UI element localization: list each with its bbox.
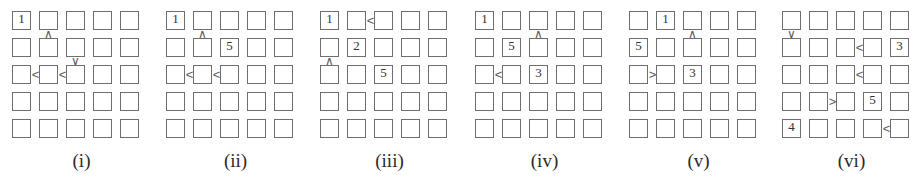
empty-cell[interactable] bbox=[401, 92, 420, 111]
empty-cell[interactable] bbox=[737, 65, 756, 84]
empty-cell[interactable] bbox=[656, 38, 675, 57]
empty-cell[interactable] bbox=[428, 92, 447, 111]
empty-cell[interactable] bbox=[12, 65, 31, 84]
empty-cell[interactable] bbox=[890, 119, 909, 138]
empty-cell[interactable] bbox=[629, 11, 648, 30]
empty-cell[interactable] bbox=[66, 92, 85, 111]
empty-cell[interactable] bbox=[320, 119, 339, 138]
empty-cell[interactable] bbox=[656, 92, 675, 111]
empty-cell[interactable] bbox=[782, 92, 801, 111]
empty-cell[interactable] bbox=[656, 65, 675, 84]
empty-cell[interactable] bbox=[401, 11, 420, 30]
empty-cell[interactable] bbox=[809, 38, 828, 57]
empty-cell[interactable] bbox=[374, 11, 393, 30]
empty-cell[interactable] bbox=[737, 38, 756, 57]
empty-cell[interactable] bbox=[809, 92, 828, 111]
empty-cell[interactable] bbox=[93, 38, 112, 57]
empty-cell[interactable] bbox=[475, 119, 494, 138]
given-cell[interactable]: 1 bbox=[166, 11, 185, 30]
empty-cell[interactable] bbox=[166, 92, 185, 111]
empty-cell[interactable] bbox=[863, 38, 882, 57]
empty-cell[interactable] bbox=[683, 119, 702, 138]
given-cell[interactable]: 3 bbox=[890, 38, 909, 57]
empty-cell[interactable] bbox=[39, 65, 58, 84]
empty-cell[interactable] bbox=[320, 38, 339, 57]
empty-cell[interactable] bbox=[120, 38, 139, 57]
empty-cell[interactable] bbox=[12, 119, 31, 138]
empty-cell[interactable] bbox=[556, 92, 575, 111]
empty-cell[interactable] bbox=[475, 38, 494, 57]
empty-cell[interactable] bbox=[556, 11, 575, 30]
empty-cell[interactable] bbox=[629, 65, 648, 84]
empty-cell[interactable] bbox=[710, 65, 729, 84]
empty-cell[interactable] bbox=[629, 92, 648, 111]
empty-cell[interactable] bbox=[347, 11, 366, 30]
empty-cell[interactable] bbox=[809, 119, 828, 138]
empty-cell[interactable] bbox=[193, 119, 212, 138]
empty-cell[interactable] bbox=[737, 92, 756, 111]
empty-cell[interactable] bbox=[556, 119, 575, 138]
empty-cell[interactable] bbox=[166, 119, 185, 138]
empty-cell[interactable] bbox=[120, 92, 139, 111]
empty-cell[interactable] bbox=[782, 65, 801, 84]
empty-cell[interactable] bbox=[683, 92, 702, 111]
empty-cell[interactable] bbox=[710, 11, 729, 30]
empty-cell[interactable] bbox=[39, 38, 58, 57]
empty-cell[interactable] bbox=[428, 65, 447, 84]
given-cell[interactable]: 1 bbox=[320, 11, 339, 30]
empty-cell[interactable] bbox=[529, 92, 548, 111]
empty-cell[interactable] bbox=[809, 65, 828, 84]
empty-cell[interactable] bbox=[401, 119, 420, 138]
empty-cell[interactable] bbox=[737, 119, 756, 138]
empty-cell[interactable] bbox=[782, 11, 801, 30]
empty-cell[interactable] bbox=[274, 11, 293, 30]
given-cell[interactable]: 5 bbox=[220, 38, 239, 57]
empty-cell[interactable] bbox=[66, 119, 85, 138]
empty-cell[interactable] bbox=[836, 65, 855, 84]
empty-cell[interactable] bbox=[247, 119, 266, 138]
empty-cell[interactable] bbox=[274, 38, 293, 57]
empty-cell[interactable] bbox=[502, 92, 521, 111]
empty-cell[interactable] bbox=[809, 11, 828, 30]
given-cell[interactable]: 1 bbox=[656, 11, 675, 30]
given-cell[interactable]: 1 bbox=[475, 11, 494, 30]
empty-cell[interactable] bbox=[863, 11, 882, 30]
empty-cell[interactable] bbox=[220, 92, 239, 111]
given-cell[interactable]: 1 bbox=[12, 11, 31, 30]
empty-cell[interactable] bbox=[710, 119, 729, 138]
empty-cell[interactable] bbox=[66, 65, 85, 84]
given-cell[interactable]: 5 bbox=[629, 38, 648, 57]
empty-cell[interactable] bbox=[710, 38, 729, 57]
empty-cell[interactable] bbox=[583, 38, 602, 57]
empty-cell[interactable] bbox=[66, 11, 85, 30]
empty-cell[interactable] bbox=[320, 92, 339, 111]
empty-cell[interactable] bbox=[39, 119, 58, 138]
empty-cell[interactable] bbox=[247, 11, 266, 30]
empty-cell[interactable] bbox=[347, 92, 366, 111]
empty-cell[interactable] bbox=[401, 38, 420, 57]
empty-cell[interactable] bbox=[475, 92, 494, 111]
empty-cell[interactable] bbox=[710, 92, 729, 111]
empty-cell[interactable] bbox=[93, 119, 112, 138]
empty-cell[interactable] bbox=[428, 119, 447, 138]
empty-cell[interactable] bbox=[93, 65, 112, 84]
empty-cell[interactable] bbox=[193, 92, 212, 111]
empty-cell[interactable] bbox=[683, 38, 702, 57]
empty-cell[interactable] bbox=[502, 65, 521, 84]
empty-cell[interactable] bbox=[12, 92, 31, 111]
empty-cell[interactable] bbox=[120, 119, 139, 138]
empty-cell[interactable] bbox=[863, 119, 882, 138]
empty-cell[interactable] bbox=[863, 65, 882, 84]
empty-cell[interactable] bbox=[836, 38, 855, 57]
empty-cell[interactable] bbox=[836, 92, 855, 111]
empty-cell[interactable] bbox=[93, 92, 112, 111]
empty-cell[interactable] bbox=[475, 65, 494, 84]
empty-cell[interactable] bbox=[347, 65, 366, 84]
empty-cell[interactable] bbox=[502, 119, 521, 138]
empty-cell[interactable] bbox=[247, 92, 266, 111]
empty-cell[interactable] bbox=[274, 65, 293, 84]
empty-cell[interactable] bbox=[193, 65, 212, 84]
empty-cell[interactable] bbox=[583, 92, 602, 111]
empty-cell[interactable] bbox=[683, 11, 702, 30]
empty-cell[interactable] bbox=[220, 119, 239, 138]
